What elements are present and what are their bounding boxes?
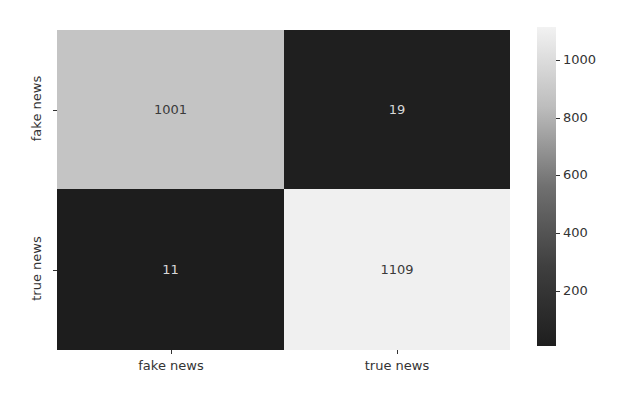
colorbar-tick [556,60,560,61]
x-tick-label-true-news: true news [337,358,457,373]
colorbar-tick [556,118,560,119]
colorbar-tick [556,291,560,292]
confusion-matrix-heatmap: 1001 19 11 1109 [57,30,510,350]
colorbar [537,27,556,346]
colorbar-label-400: 400 [563,225,588,240]
x-tick-mark [171,350,172,354]
y-tick-label-true-news: true news [29,219,44,319]
cell-fake-true: 19 [284,30,510,189]
x-tick-mark [397,350,398,354]
cell-true-true: 1109 [284,189,510,350]
cell-true-fake: 11 [57,189,284,350]
y-tick-mark [53,110,57,111]
cell-value: 11 [162,262,179,277]
colorbar-label-1000: 1000 [563,52,596,67]
cell-value: 19 [389,102,406,117]
colorbar-label-600: 600 [563,167,588,182]
y-tick-label-fake-news: fake news [29,59,44,159]
colorbar-tick [556,175,560,176]
cell-value: 1001 [154,102,187,117]
x-tick-label-fake-news: fake news [111,358,231,373]
y-tick-mark [53,270,57,271]
colorbar-label-200: 200 [563,283,588,298]
cell-fake-fake: 1001 [57,30,284,189]
cell-value: 1109 [380,262,413,277]
colorbar-tick [556,233,560,234]
colorbar-label-800: 800 [563,110,588,125]
